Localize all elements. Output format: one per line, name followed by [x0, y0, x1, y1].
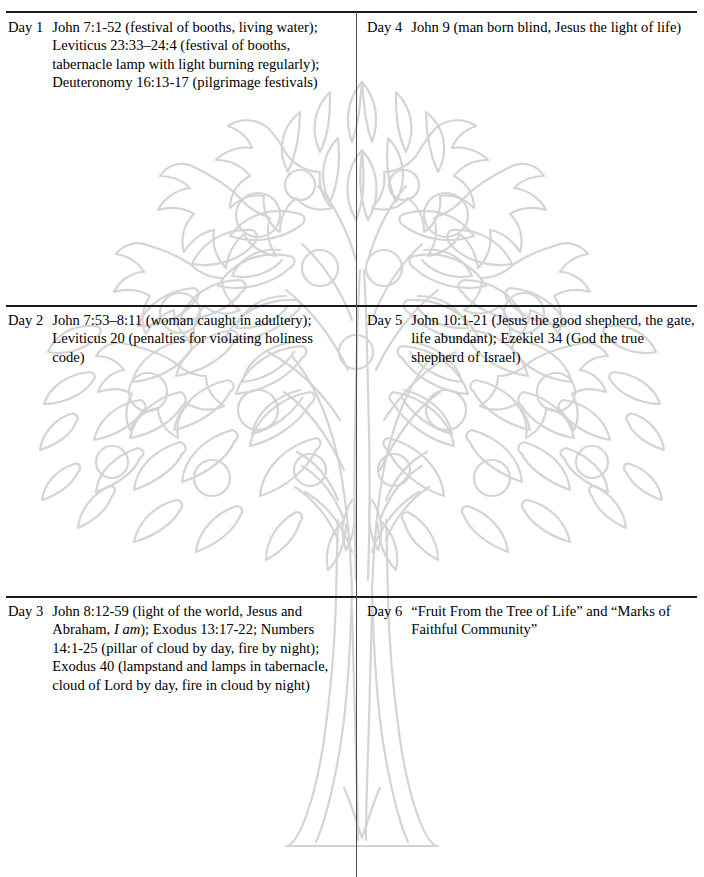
entry-day-5: Day 5 John 10:1-21 (Jesus the good sheph… — [367, 311, 697, 366]
entry-day-2: Day 2 John 7:53–8:11 (woman caught in ad… — [8, 311, 344, 366]
day-text-1: John 7:1-52 (festival of booths, living … — [52, 18, 344, 92]
rule-top — [6, 11, 697, 13]
rule-middle — [6, 305, 697, 307]
entry-day-3: Day 3 John 8:12-59 (light of the world, … — [8, 602, 344, 694]
tree-of-life-watermark-icon — [0, 0, 704, 877]
day-text-2: John 7:53–8:11 (woman caught in adultery… — [52, 311, 344, 366]
day-label-3: Day 3 — [8, 602, 52, 620]
day-label-2: Day 2 — [8, 311, 52, 329]
page-root: Day 1 John 7:1-52 (festival of booths, l… — [0, 0, 704, 877]
entry-day-4: Day 4 John 9 (man born blind, Jesus the … — [367, 18, 697, 36]
day-label-5: Day 5 — [367, 311, 411, 329]
column-divider — [356, 12, 357, 877]
day-text-5: John 10:1-21 (Jesus the good shepherd, t… — [411, 311, 697, 366]
entry-day-1: Day 1 John 7:1-52 (festival of booths, l… — [8, 18, 344, 92]
day-text-3: John 8:12-59 (light of the world, Jesus … — [52, 602, 344, 694]
day-label-6: Day 6 — [367, 602, 411, 620]
day-text-6: “Fruit From the Tree of Life” and “Marks… — [411, 602, 697, 639]
day-label-1: Day 1 — [8, 18, 52, 36]
day-label-4: Day 4 — [367, 18, 411, 36]
entry-day-6: Day 6 “Fruit From the Tree of Life” and … — [367, 602, 697, 639]
rule-bottom — [6, 596, 697, 598]
day-text-4: John 9 (man born blind, Jesus the light … — [411, 18, 697, 36]
